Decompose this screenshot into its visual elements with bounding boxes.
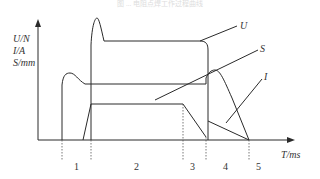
phase-label-2: 2: [134, 161, 139, 172]
phase-label-5: 5: [256, 161, 261, 172]
curve-label-i: I: [263, 71, 268, 82]
leader-s: [155, 50, 258, 100]
leader-i: [226, 79, 262, 123]
leader-u: [200, 26, 237, 41]
y-label-u: U/N: [13, 33, 31, 44]
y-axis-arrow-icon: [35, 19, 41, 27]
phase-label-1: 1: [74, 161, 79, 172]
phase-label-3: 3: [190, 161, 195, 172]
curve-u: [91, 18, 208, 140]
curve-label-s: S: [260, 43, 265, 54]
curve-i: [62, 70, 249, 140]
process-diagram: U/N I/A S/mm U S I T/ms 1 2 3 4 5: [0, 0, 320, 179]
x-axis-arrow-icon: [287, 137, 295, 143]
curve-label-u: U: [240, 20, 248, 31]
x-label: T/ms: [281, 149, 301, 160]
phase-label-4: 4: [223, 161, 228, 172]
y-label-i: I/A: [12, 45, 26, 56]
curve-s: [83, 104, 206, 140]
y-label-s: S/mm: [13, 57, 35, 68]
